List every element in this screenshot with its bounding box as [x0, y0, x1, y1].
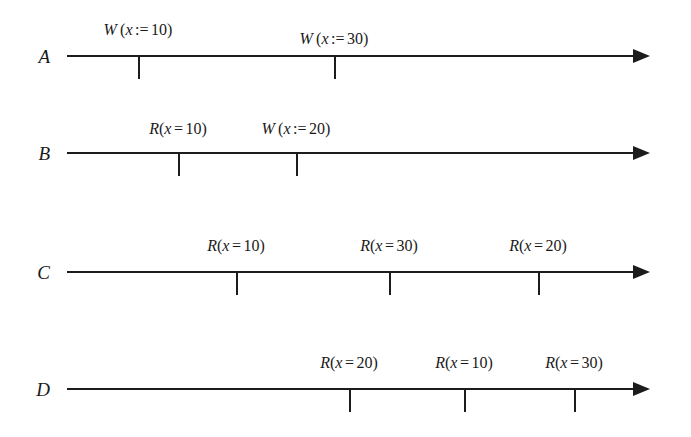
timeline-event-label: R(x=10) — [435, 355, 493, 371]
event-operation: R — [545, 354, 555, 371]
event-variable: x — [321, 30, 328, 47]
event-value: 20 — [357, 354, 373, 371]
event-variable: x — [164, 120, 171, 137]
event-operator: = — [385, 237, 394, 254]
timeline-figure: AW(x:=10)W(x:=30)BR(x=10)W(x:=20)CR(x=10… — [0, 0, 691, 437]
event-variable: x — [222, 237, 229, 254]
timeline-event-label: W(x:=20) — [262, 121, 331, 137]
timeline-row-label: B — [20, 144, 50, 163]
event-operation: R — [509, 237, 519, 254]
event-close-paren: ) — [413, 237, 418, 254]
timeline-event-label: W(x:=10) — [104, 22, 173, 38]
timeline-tick — [389, 271, 391, 295]
event-variable: x — [560, 354, 567, 371]
timeline-tick — [574, 388, 576, 412]
event-value: 20 — [546, 237, 562, 254]
event-operator: = — [534, 237, 543, 254]
timeline-arrow-icon — [633, 49, 650, 63]
event-operator: := — [293, 120, 306, 137]
event-operator: = — [174, 120, 183, 137]
timeline-event-label: R(x=10) — [207, 238, 265, 254]
event-variable: x — [524, 237, 531, 254]
event-variable: x — [125, 21, 132, 38]
event-value: 10 — [186, 120, 202, 137]
event-value: 10 — [151, 21, 167, 38]
event-value: 10 — [472, 354, 488, 371]
timeline-tick — [296, 152, 298, 176]
timeline-tick — [349, 388, 351, 412]
event-variable: x — [283, 120, 290, 137]
event-operator: := — [331, 30, 344, 47]
timeline-tick — [334, 55, 336, 79]
timeline-event-label: R(x=20) — [509, 238, 567, 254]
event-close-paren: ) — [562, 237, 567, 254]
timeline-arrow-icon — [633, 265, 650, 279]
timeline-axis-line — [67, 271, 633, 273]
event-operator: = — [345, 354, 354, 371]
event-value: 30 — [347, 30, 363, 47]
timeline-tick — [236, 271, 238, 295]
event-close-paren: ) — [598, 354, 603, 371]
event-operation: R — [435, 354, 445, 371]
event-operation: W — [104, 21, 117, 38]
timeline-arrow-icon — [633, 146, 650, 160]
event-close-paren: ) — [363, 30, 368, 47]
event-operation: R — [320, 354, 330, 371]
event-variable: x — [375, 237, 382, 254]
event-close-paren: ) — [373, 354, 378, 371]
timeline-tick — [464, 388, 466, 412]
timeline-event-label: R(x=10) — [149, 121, 207, 137]
event-operator: = — [232, 237, 241, 254]
event-value: 30 — [582, 354, 598, 371]
timeline-tick — [138, 55, 140, 79]
timeline-tick — [178, 152, 180, 176]
timeline-event-label: W(x:=30) — [300, 31, 369, 47]
event-value: 10 — [244, 237, 260, 254]
event-variable: x — [335, 354, 342, 371]
timeline-row-label: A — [20, 47, 50, 66]
event-operation: W — [262, 120, 275, 137]
event-operation: W — [300, 30, 313, 47]
timeline-row-label: C — [20, 263, 50, 282]
event-operator: := — [135, 21, 148, 38]
event-value: 20 — [309, 120, 325, 137]
event-operation: R — [207, 237, 217, 254]
event-close-paren: ) — [488, 354, 493, 371]
event-operation: R — [360, 237, 370, 254]
timeline-axis-line — [67, 152, 633, 154]
timeline-event-label: R(x=20) — [320, 355, 378, 371]
timeline-event-label: R(x=30) — [545, 355, 603, 371]
event-operation: R — [149, 120, 159, 137]
event-close-paren: ) — [167, 21, 172, 38]
event-close-paren: ) — [260, 237, 265, 254]
event-operator: = — [460, 354, 469, 371]
event-variable: x — [450, 354, 457, 371]
timeline-tick — [538, 271, 540, 295]
timeline-arrow-icon — [633, 382, 650, 396]
event-value: 30 — [397, 237, 413, 254]
timeline-event-label: R(x=30) — [360, 238, 418, 254]
event-close-paren: ) — [202, 120, 207, 137]
event-operator: = — [570, 354, 579, 371]
timeline-axis-line — [67, 55, 633, 57]
timeline-row-label: D — [20, 380, 50, 399]
event-close-paren: ) — [325, 120, 330, 137]
